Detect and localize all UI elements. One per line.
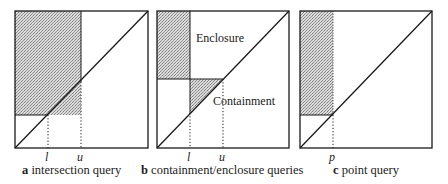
intersection-shaded-region [15, 11, 81, 115]
caption-letter: b [141, 163, 148, 177]
enclosure-shaded-region [157, 11, 190, 79]
containment-label: Containment [213, 94, 275, 109]
caption-b: b containment/enclosure queries [141, 163, 303, 178]
panel-intersection [15, 11, 148, 148]
point-shaded-region [300, 11, 333, 115]
caption-text: containment/enclosure queries [151, 163, 303, 177]
enclosure-label: Enclosure [196, 31, 244, 46]
caption-text: intersection query [31, 163, 121, 177]
caption-letter: a [22, 163, 28, 177]
panel-point [300, 11, 432, 148]
caption-letter: c [333, 163, 339, 177]
caption-c: c point query [333, 163, 399, 178]
caption-text: point query [342, 163, 399, 177]
caption-a: a intersection query [22, 163, 121, 178]
